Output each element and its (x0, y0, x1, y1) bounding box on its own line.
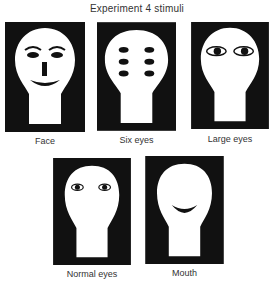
nose-icon (42, 62, 47, 76)
stimulus-six-eyes (97, 22, 176, 131)
eye-icon (144, 71, 154, 77)
large-eyes-stimulus-image (190, 22, 270, 129)
figure-title: Experiment 4 stimuli (0, 3, 274, 14)
stimulus-normal-eyes (52, 158, 132, 265)
eye-icon (119, 71, 129, 77)
stimulus-face (5, 22, 85, 132)
eye-icon (144, 47, 154, 53)
eye-icon (144, 59, 154, 65)
face-stimulus-image (5, 22, 85, 132)
left-eye-icon (27, 52, 39, 58)
label-mouth: Mouth (144, 268, 225, 278)
label-large-eyes: Large eyes (190, 134, 270, 144)
mouth-stimulus-image (144, 156, 225, 264)
eye-icon (119, 59, 129, 65)
six-eyes-stimulus-image (97, 22, 176, 131)
eye-icon (119, 47, 129, 53)
stimulus-mouth (144, 156, 225, 264)
label-six-eyes: Six eyes (97, 135, 176, 145)
label-face: Face (5, 136, 85, 146)
label-normal-eyes: Normal eyes (48, 269, 136, 279)
normal-eyes-stimulus-image (52, 158, 132, 265)
right-eye-icon (51, 52, 63, 58)
stimulus-large-eyes (190, 22, 270, 129)
